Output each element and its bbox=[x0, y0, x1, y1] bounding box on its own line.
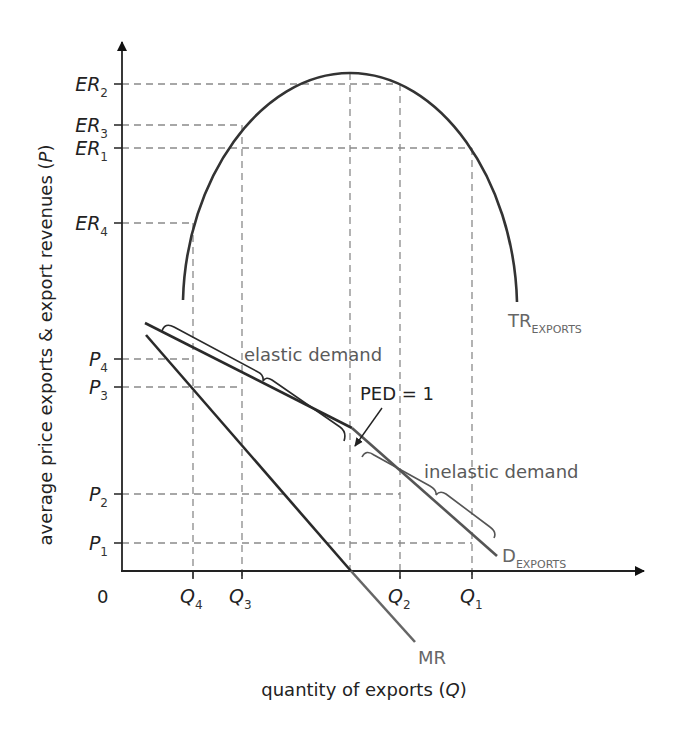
demand-elastic-segment bbox=[145, 323, 352, 428]
tick-label-er2: ER2 bbox=[75, 73, 108, 100]
origin-label: 0 bbox=[97, 586, 108, 607]
y-tick-marks bbox=[114, 84, 122, 543]
inelastic-demand-label: inelastic demand bbox=[424, 461, 578, 482]
tick-label-p4: P4 bbox=[89, 348, 108, 375]
x-tick-labels: 0 Q4 Q3 Q2 Q1 bbox=[97, 585, 483, 612]
tick-label-p2: P2 bbox=[89, 483, 108, 510]
mr-upper-segment bbox=[146, 335, 351, 571]
tick-label-er4: ER4 bbox=[75, 212, 108, 239]
demand-inelastic-segment bbox=[352, 428, 497, 556]
x-axis-title: quantity of exports (Q) bbox=[261, 679, 466, 700]
d-exports-label: DEXPORTS bbox=[502, 545, 566, 571]
ped-equals-one-label: PED = 1 bbox=[360, 383, 434, 404]
tick-label-q3: Q3 bbox=[229, 585, 252, 612]
tick-label-q2: Q2 bbox=[388, 585, 411, 612]
tick-label-p3: P3 bbox=[89, 376, 108, 403]
elastic-demand-label: elastic demand bbox=[244, 344, 382, 365]
tick-label-q1: Q1 bbox=[460, 585, 483, 612]
ped-pointer-arrow bbox=[355, 408, 382, 446]
export-revenue-diagram: ER2 ER3 ER1 ER4 P4 P3 P2 P1 0 Q4 Q3 Q2 Q… bbox=[0, 0, 682, 729]
mr-label: MR bbox=[418, 647, 446, 668]
y-tick-labels: ER2 ER3 ER1 ER4 P4 P3 P2 P1 bbox=[75, 73, 108, 559]
tick-label-er1: ER1 bbox=[75, 137, 108, 164]
vertical-guides bbox=[193, 73, 472, 578]
x-tick-marks bbox=[193, 571, 472, 579]
tick-label-p1: P1 bbox=[89, 532, 108, 559]
horizontal-guides bbox=[122, 84, 472, 543]
tick-label-q4: Q4 bbox=[180, 585, 203, 612]
tr-exports-label: TREXPORTS bbox=[507, 310, 582, 336]
y-axis-title: average price exports & export revenues … bbox=[35, 145, 56, 546]
